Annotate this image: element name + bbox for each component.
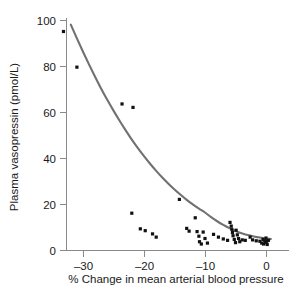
data-point: [212, 233, 215, 236]
scatter-plot: 020406080100 –30–20–100 % Change in mean…: [0, 0, 296, 294]
data-point: [267, 239, 270, 242]
data-point: [235, 229, 238, 232]
data-point: [230, 224, 233, 227]
data-point: [155, 236, 158, 239]
data-point: [144, 229, 147, 232]
data-point: [234, 241, 237, 244]
x-tick-label--10: –10: [196, 260, 215, 272]
data-point: [244, 239, 247, 242]
data-point: [130, 212, 133, 215]
data-point: [202, 230, 205, 233]
data-point: [75, 66, 78, 69]
data-point: [228, 221, 231, 224]
y-tick-label-60: 60: [43, 107, 56, 119]
y-tick-label-100: 100: [37, 15, 56, 27]
data-point: [251, 238, 254, 241]
data-point: [217, 236, 220, 239]
data-point: [241, 238, 244, 241]
data-point: [200, 242, 203, 245]
data-point: [188, 230, 191, 233]
x-axis-group: –30–20–100: [67, 251, 290, 273]
y-axis-title: Plasma vasopressin (pmol/L): [8, 63, 20, 211]
data-point: [203, 237, 206, 240]
x-tick-label-0: 0: [263, 260, 269, 272]
data-point: [236, 233, 239, 236]
data-point: [237, 237, 240, 240]
data-point: [206, 242, 209, 245]
x-tick-label--20: –20: [135, 260, 154, 272]
x-tick-label--30: –30: [74, 260, 93, 272]
fitted-exponential-curve: [71, 25, 271, 239]
x-axis-tick-labels: –30–20–100: [74, 260, 270, 272]
x-axis-title: % Change in mean arterial blood pressure: [68, 273, 283, 285]
data-point: [231, 231, 234, 234]
data-point: [266, 243, 269, 246]
y-tick-label-80: 80: [43, 61, 56, 73]
data-point: [131, 106, 134, 109]
data-point: [185, 227, 188, 230]
y-tick-label-0: 0: [50, 245, 56, 257]
data-point: [231, 234, 234, 237]
data-point: [255, 239, 258, 242]
x-axis-ticks: [84, 251, 267, 258]
data-point: [62, 30, 65, 33]
y-tick-label-20: 20: [43, 199, 56, 211]
y-tick-label-40: 40: [43, 153, 56, 165]
data-point: [194, 216, 197, 219]
data-point: [120, 102, 123, 105]
data-point: [139, 227, 142, 230]
y-axis-group: 020406080100: [37, 15, 67, 257]
data-point: [230, 228, 233, 231]
data-points-group: [62, 30, 270, 246]
data-point: [226, 239, 229, 242]
data-point: [249, 236, 252, 239]
data-point: [195, 230, 198, 233]
figure-container: 020406080100 –30–20–100 % Change in mean…: [0, 0, 296, 294]
y-axis-ticks: [60, 21, 67, 251]
data-point: [151, 232, 154, 235]
y-axis-tick-labels: 020406080100: [37, 15, 56, 257]
data-point: [178, 198, 181, 201]
data-point: [197, 235, 200, 238]
data-point: [222, 237, 225, 240]
data-point: [233, 238, 236, 241]
